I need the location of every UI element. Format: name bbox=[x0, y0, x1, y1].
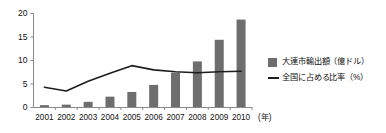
y-tick-label: 15 bbox=[18, 32, 28, 42]
bar bbox=[193, 61, 202, 107]
x-tick-label: 2010 bbox=[232, 113, 251, 122]
x-tick-label: 2003 bbox=[79, 113, 98, 122]
legend-item-label: 大連市輸出額（億ドル） bbox=[282, 58, 369, 66]
x-tick-label: 2004 bbox=[101, 113, 120, 122]
y-tick-label: 0 bbox=[23, 102, 28, 112]
legend-item-line: 全国に占める比率（%） bbox=[268, 70, 386, 86]
chart-figure: 05101520 2001200220032004200520062007200… bbox=[0, 0, 386, 133]
x-tick-label: 2007 bbox=[166, 113, 185, 122]
x-tick-labels: 2001200220032004200520062007200820092010 bbox=[35, 113, 250, 122]
line-series bbox=[44, 66, 241, 91]
bar bbox=[105, 97, 114, 107]
bar bbox=[62, 105, 71, 107]
x-tick-label: 2002 bbox=[57, 113, 76, 122]
y-tick-label: 20 bbox=[18, 8, 28, 18]
bar-swatch-icon bbox=[268, 58, 277, 67]
x-tick-label: 2008 bbox=[188, 113, 207, 122]
bar bbox=[40, 105, 49, 107]
bar bbox=[84, 102, 93, 107]
x-tick-label: 2009 bbox=[210, 113, 229, 122]
bar bbox=[237, 20, 246, 107]
chart-legend: 大連市輸出額（億ドル） 全国に占める比率（%） bbox=[268, 54, 386, 86]
x-axis-unit-text: (年) bbox=[258, 112, 272, 122]
bar-series bbox=[40, 20, 246, 107]
line-swatch-icon bbox=[268, 77, 279, 79]
legend-item-bar: 大連市輸出額（億ドル） bbox=[268, 54, 386, 70]
x-tick-label: 2005 bbox=[123, 113, 142, 122]
legend-item-label: 全国に占める比率（%） bbox=[282, 74, 368, 82]
x-tick-label: 2006 bbox=[145, 113, 164, 122]
bar bbox=[215, 40, 224, 107]
bar bbox=[171, 73, 180, 107]
bar bbox=[149, 85, 158, 107]
line-path bbox=[44, 66, 241, 91]
x-tick-label: 2001 bbox=[35, 113, 54, 122]
x-axis-unit-label: (年) bbox=[258, 112, 272, 122]
y-tick-label: 5 bbox=[23, 79, 28, 89]
bar bbox=[127, 92, 136, 107]
y-tick-label: 10 bbox=[18, 55, 28, 65]
y-tick-labels: 05101520 bbox=[18, 8, 28, 112]
